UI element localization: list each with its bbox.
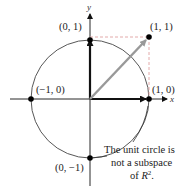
- y-axis-label: y: [86, 2, 91, 12]
- point-0-neg1: [87, 155, 93, 161]
- annotation-of: of: [130, 170, 141, 181]
- diagram-canvas: x y (0, 1) (1, 1) (−1, 0) (1, 0) (0, −1)…: [0, 0, 190, 191]
- leader-line-lower: [92, 156, 107, 158]
- point-1-1: [146, 34, 152, 40]
- label-0-1: (0, 1): [59, 21, 82, 33]
- point-0-1: [87, 37, 93, 43]
- point-neg1-0: [28, 96, 34, 102]
- annotation-line-1: The unit circle is: [104, 144, 175, 155]
- label-1-0: (1, 0): [152, 84, 175, 96]
- label-0-neg1: (0, −1): [55, 162, 84, 174]
- x-axis-label: x: [169, 94, 174, 104]
- label-neg1-0: (−1, 0): [36, 84, 65, 96]
- unit-circle-diagram: x y (0, 1) (1, 1) (−1, 0) (1, 0) (0, −1)…: [0, 0, 190, 191]
- label-1-1: (1, 1): [150, 21, 173, 33]
- point-1-0: [146, 96, 152, 102]
- annotation-line-3: of R2.: [130, 169, 154, 181]
- annotation-line-2: not a subspace: [111, 157, 173, 168]
- vector-sum: [90, 40, 146, 99]
- annotation-period: .: [151, 170, 154, 181]
